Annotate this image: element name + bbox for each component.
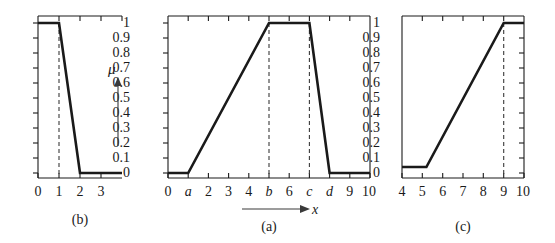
x-ticklabel: 0 [165,185,172,199]
x-ticklabel: 6 [286,185,293,199]
x-ticklabel: 10 [516,185,530,199]
panel-a-left-ticks [163,23,168,173]
panel-b-top-ticks [59,16,122,21]
x-ticklabel: 0 [35,185,42,199]
panel-c-right-ticks [519,23,524,173]
x-ticklabel: 3 [225,185,232,199]
x-ticklabel: 4 [245,185,252,199]
fuzzy-membership-figure: 1 0.9 0.8 0.7 0.6 0.5 0.4 0.3 0.2 0.1 0 [0,0,555,243]
panel-c-curve [402,23,524,167]
x-ticklabel: 8 [480,185,487,199]
arrow-head-right-icon [300,205,310,213]
x-ticklabel-d: d [326,185,333,199]
panel-b-caption: (b) [72,213,88,227]
x-ticklabel: 9 [346,185,353,199]
arrow-head-up-icon [114,77,122,86]
x-ticklabel: 4 [399,185,406,199]
panel-c: 4 5 6 7 8 9 10 (c) [380,0,555,243]
x-ticklabel: 3 [98,185,105,199]
x-ticklabel-b: b [266,185,273,199]
x-ticklabel: 2 [77,185,84,199]
panel-c-caption: (c) [455,220,471,234]
x-ticklabel: 2 [205,185,212,199]
x-ticklabel: 6 [439,185,446,199]
panel-c-plot [380,0,555,243]
panel-b-left-ticks [33,23,38,173]
x-ticklabel: 10 [362,185,376,199]
panel-a-top-ticks [188,16,350,21]
x-axis-label: x [312,203,318,217]
x-ticklabel: 1 [56,185,63,199]
panel-a-caption: (a) [261,220,277,234]
x-ticklabel-c: c [306,185,312,199]
x-ticklabel: 5 [419,185,426,199]
x-ticklabel: 9 [500,185,507,199]
panel-c-bottom-ticks [402,173,524,178]
panel-a-x-arrow [240,200,350,222]
panel-c-top-ticks [422,16,503,21]
x-ticklabel: 7 [460,185,467,199]
panel-a: 1 0.9 0.8 0.7 0.6 0.5 0.4 0.3 0.2 0.1 0 [130,0,380,243]
x-ticklabel-a: a [185,185,192,199]
